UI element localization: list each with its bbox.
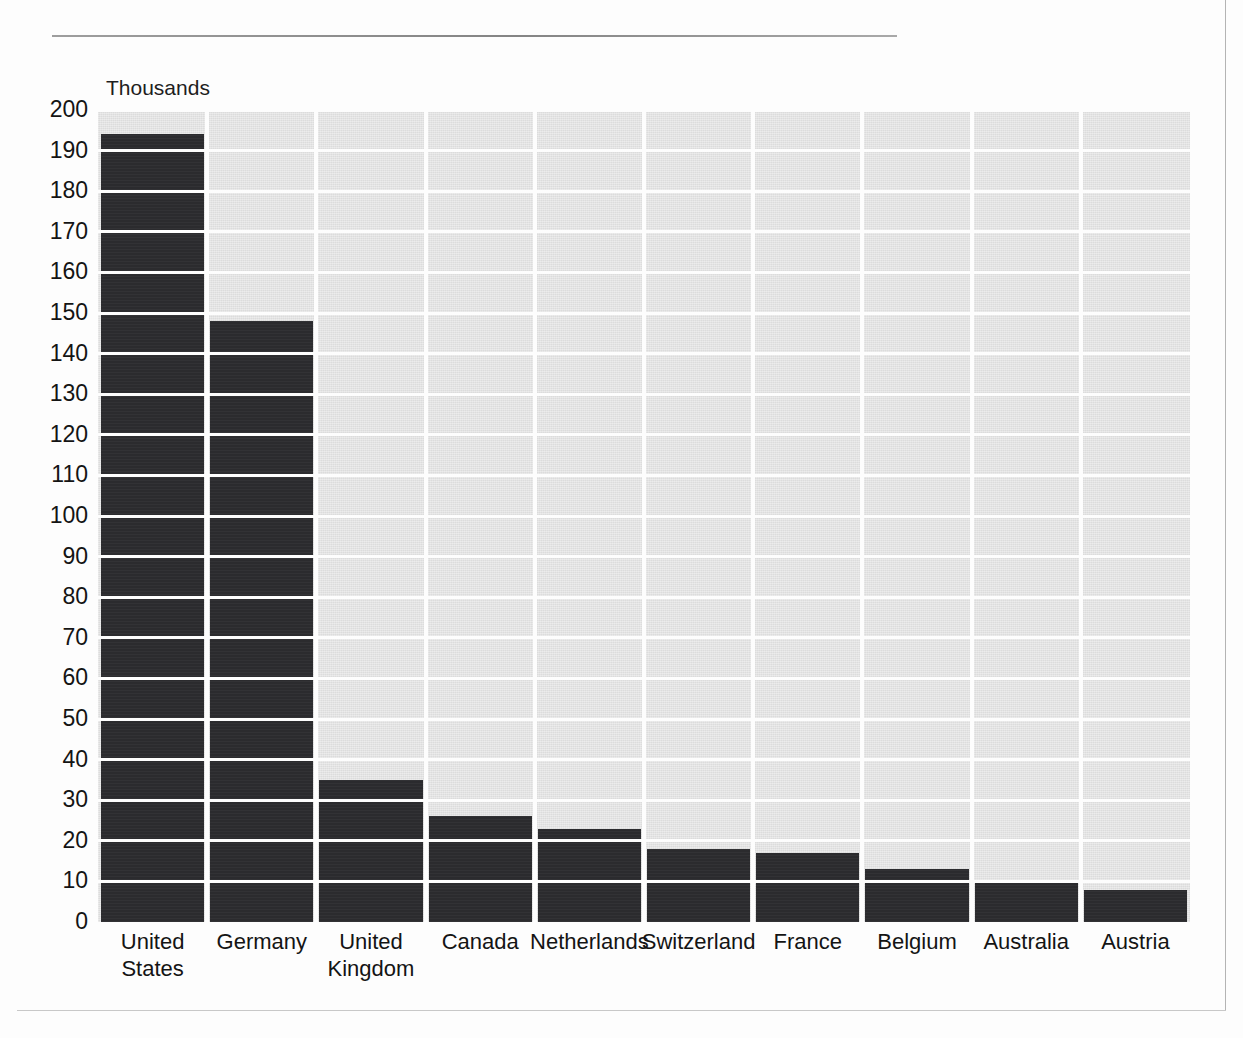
page-canvas: Thousands 200190180170160150140130120110… [0,0,1243,1038]
x-axis-category-labels: UnitedStatesGermanyUnitedKingdomCanadaNe… [98,928,1190,992]
gridline-vertical [424,110,428,922]
y-tick-label: 80 [10,585,88,608]
y-tick-label: 170 [10,220,88,243]
y-tick-label: 100 [10,504,88,527]
y-tick-label: 90 [10,545,88,568]
bar-austria[interactable] [1084,890,1187,922]
bar-united-states[interactable] [101,134,204,922]
bar-switzerland[interactable] [647,849,750,922]
bar-germany[interactable] [210,321,313,922]
y-tick-label: 160 [10,260,88,283]
y-tick-label: 130 [10,382,88,405]
y-tick-label: 180 [10,179,88,202]
y-tick-label: 190 [10,139,88,162]
gridline-vertical [970,110,974,922]
gridline-vertical [642,110,646,922]
y-tick-label: 150 [10,301,88,324]
y-tick-label: 50 [10,707,88,730]
bar-netherlands[interactable] [538,829,641,922]
y-tick-label: 110 [10,463,88,486]
y-tick-label: 10 [10,869,88,892]
y-tick-label: 120 [10,423,88,446]
bar-chart: Thousands 200190180170160150140130120110… [0,0,1243,1038]
y-tick-label: 70 [10,626,88,649]
y-tick-label: 140 [10,342,88,365]
y-axis-tick-labels: 2001901801701601501401301201101009080706… [0,110,88,922]
y-tick-label: 30 [10,788,88,811]
gridline-vertical [533,110,537,922]
y-tick-label: 200 [10,98,88,121]
y-axis-unit-label: Thousands [106,76,210,100]
bar-australia[interactable] [975,881,1078,922]
y-tick-label: 20 [10,829,88,852]
y-tick-label: 40 [10,748,88,771]
bar-belgium[interactable] [865,869,968,922]
plot-area [98,110,1190,922]
gridline-vertical [314,110,318,922]
gridline-vertical [751,110,755,922]
bar-france[interactable] [756,853,859,922]
bar-canada[interactable] [429,816,532,922]
gridline-vertical [205,110,209,922]
gridline-vertical [860,110,864,922]
x-tick-label-austria: Austria [1067,928,1204,955]
gridline-vertical [1079,110,1083,922]
y-tick-label: 60 [10,666,88,689]
y-tick-label: 0 [10,910,88,933]
